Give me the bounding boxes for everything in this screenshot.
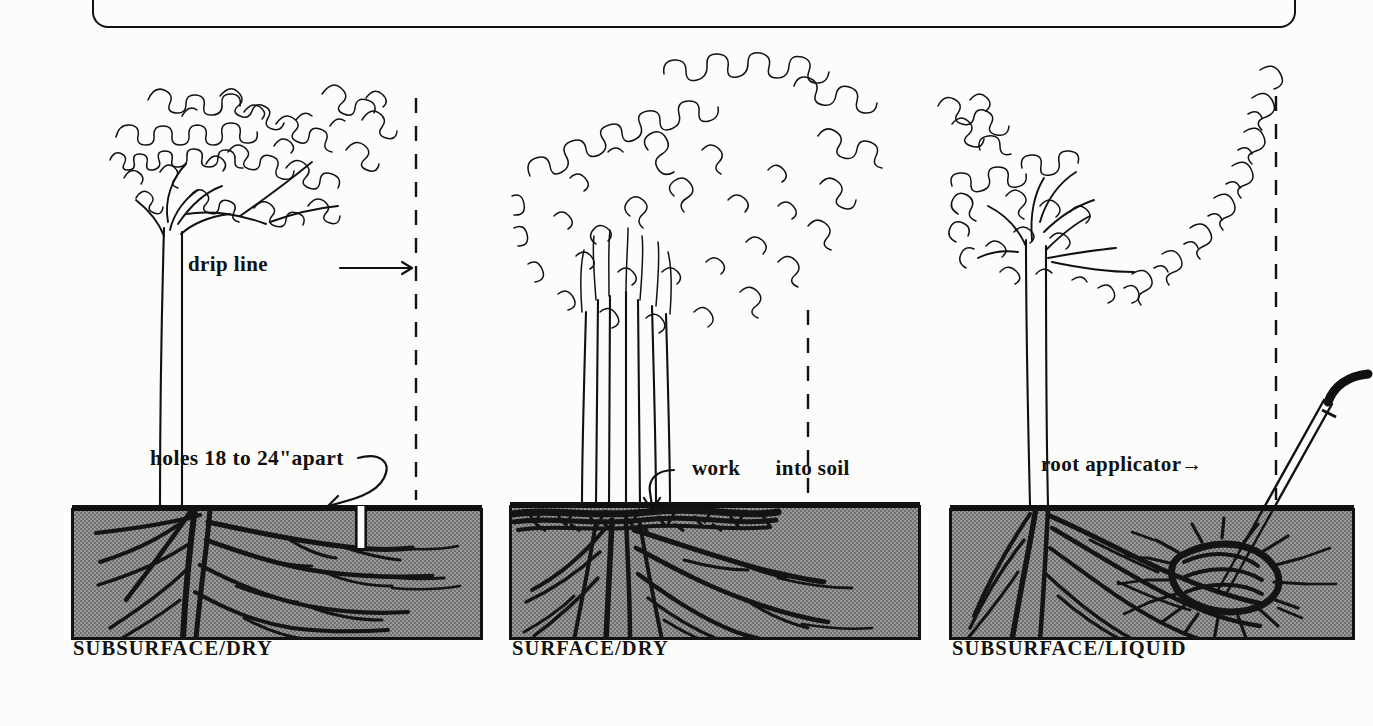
drip-line-label: drip line [188,252,268,276]
annotation-drip-line: drip line [188,252,268,277]
canopy-foliage [938,66,1282,305]
fertilizer-hole [357,506,365,550]
panel-1-drawing [40,0,500,726]
soil-block [950,508,1354,640]
figure-root: drip line holes 18 to 24"apart work into… [0,0,1373,726]
annotation-root-applicator: root applicator→ [1041,452,1203,477]
work-label-left: work [692,456,740,480]
annotation-holes-spacing: holes 18 to 24"apart [150,446,344,471]
trunk-cluster [582,292,670,504]
panel-3-drawing [918,0,1373,726]
drip-line-arrow-icon [340,262,412,274]
caption-subsurface-liquid: SUBSURFACE/LIQUID [952,637,1187,660]
caption-subsurface-dry: SUBSURFACE/DRY [73,637,273,660]
panel-2-drawing [478,0,938,726]
panel-subsurface-dry [40,0,500,726]
panel-surface-dry [478,0,938,726]
annotation-work-into-soil: work into soil [692,456,850,481]
caption-surface-dry: SURFACE/DRY [512,637,669,660]
work-label-right: into soil [776,456,850,480]
canopy-foliage [512,53,882,333]
panel-subsurface-liquid [918,0,1373,726]
surface-fertilizer-band [512,509,778,531]
